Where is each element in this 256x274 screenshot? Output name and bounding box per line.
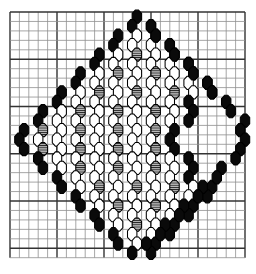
black-bead: [57, 180, 66, 193]
black-bead: [142, 237, 151, 250]
black-bead: [212, 171, 221, 184]
black-bead: [231, 152, 240, 165]
black-bead: [19, 142, 28, 155]
black-bead: [189, 67, 198, 80]
beadwork-chart: Beadwork Diamond Pattern Chart: [0, 0, 256, 274]
black-bead: [113, 237, 122, 250]
black-bead: [76, 199, 85, 212]
black-bead: [156, 227, 165, 240]
black-bead: [151, 29, 160, 42]
black-bead: [226, 105, 235, 118]
bead-pattern-layer: [0, 0, 256, 274]
black-bead: [38, 161, 47, 174]
black-bead: [175, 209, 184, 222]
black-bead: [193, 190, 202, 203]
black-bead: [184, 114, 193, 127]
black-bead: [95, 218, 104, 231]
black-bead: [128, 246, 137, 259]
black-bead: [207, 86, 216, 99]
black-bead: [170, 48, 179, 61]
